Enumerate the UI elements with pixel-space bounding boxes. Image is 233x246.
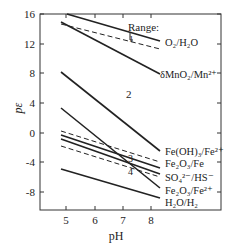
- region-label-1: 1: [129, 34, 134, 44]
- line-so4-hs: [61, 139, 160, 174]
- series-label-fe2o3-fe: Fe₂O₃/Fe: [165, 158, 204, 169]
- series-label-o2-h2o: O₂/H₂O: [165, 37, 198, 48]
- region-label-2: 2: [126, 88, 132, 100]
- series-label-feoh3: Fe(OH)₃/Fe²⁺: [165, 146, 224, 158]
- y-axis-label: pε: [11, 102, 25, 114]
- y-tick-label: -8: [26, 186, 36, 198]
- series-label-h2o-h2: H₂O/H₂: [165, 197, 198, 208]
- range-label: Range:: [128, 21, 159, 33]
- y-tick-label: 4: [30, 97, 36, 109]
- x-tick-label: 5: [63, 214, 69, 226]
- y-tick-label: -4: [26, 156, 36, 168]
- line-range-lower-dashed-bottom: [61, 146, 160, 177]
- x-tick-label: 7: [120, 214, 126, 226]
- region-label-4: 4: [128, 166, 133, 177]
- x-axis-label: pH: [109, 229, 124, 243]
- region-label-3: 3: [128, 153, 133, 164]
- x-tick-label: 6: [92, 214, 98, 226]
- y-tick-label: 0: [30, 127, 36, 139]
- line-h2o-h2: [61, 169, 160, 198]
- y-tick-label: 12: [24, 38, 35, 50]
- series-label-fe2o3-fe2: Fe₂O₃/Fe²⁺: [165, 185, 213, 196]
- x-axis: [66, 14, 151, 210]
- series-label-so4-hs: SO₄²⁻/HS⁻: [165, 172, 214, 183]
- line-fe2o3-fe2: [61, 108, 160, 188]
- x-tick-label: 8: [148, 214, 154, 226]
- series-lines: [61, 14, 160, 198]
- series-label-mno2: δMnO₂/Mn²⁺: [160, 69, 217, 80]
- line-range-lower-dashed-top: [61, 131, 160, 162]
- pe-ph-chart: 16 12 8 4 0 -4 -8 pε 5 6 7 8 pH Range:: [0, 0, 233, 246]
- y-tick-label: 8: [30, 67, 36, 79]
- y-tick-label: 16: [24, 8, 36, 20]
